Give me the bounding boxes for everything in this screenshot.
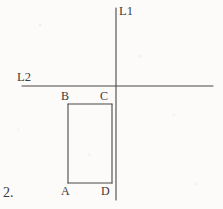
label-vertex-a: A bbox=[61, 185, 70, 197]
label-line-l1: L1 bbox=[119, 5, 133, 18]
label-vertex-d: D bbox=[101, 185, 110, 197]
geometry-drawing bbox=[0, 0, 223, 209]
item-number: 2. bbox=[3, 186, 14, 200]
label-vertex-c: C bbox=[100, 90, 108, 102]
diagram-canvas: L1 L2 B C A D 2. bbox=[0, 0, 223, 209]
label-vertex-b: B bbox=[61, 90, 69, 102]
rectangle-abcd bbox=[68, 104, 112, 183]
label-line-l2: L2 bbox=[17, 71, 31, 84]
